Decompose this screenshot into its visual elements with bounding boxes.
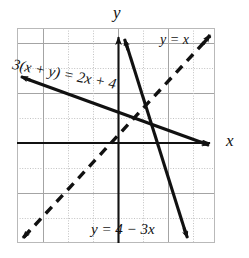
coordinate-graph-figure: y x y = x 3(x + y) = 2x + 4 y = 4 − 3x [0,0,249,258]
x-axis-label: x [226,132,234,149]
y-axis-label: y [113,4,121,21]
graph-canvas [0,0,249,258]
line-label-y-equals-x: y = x [160,33,189,47]
line-label-steep: y = 4 − 3x [91,222,155,237]
